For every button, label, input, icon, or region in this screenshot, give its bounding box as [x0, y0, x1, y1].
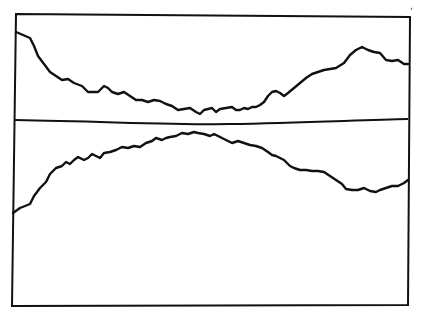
ridge-line-upper: [16, 32, 408, 114]
frame-border: [12, 14, 410, 306]
corner-mark: ,: [410, 1, 413, 11]
ridge-line-reflection: [13, 132, 408, 213]
horizon-line: [15, 119, 408, 124]
figure-canvas: ,: [0, 0, 424, 318]
